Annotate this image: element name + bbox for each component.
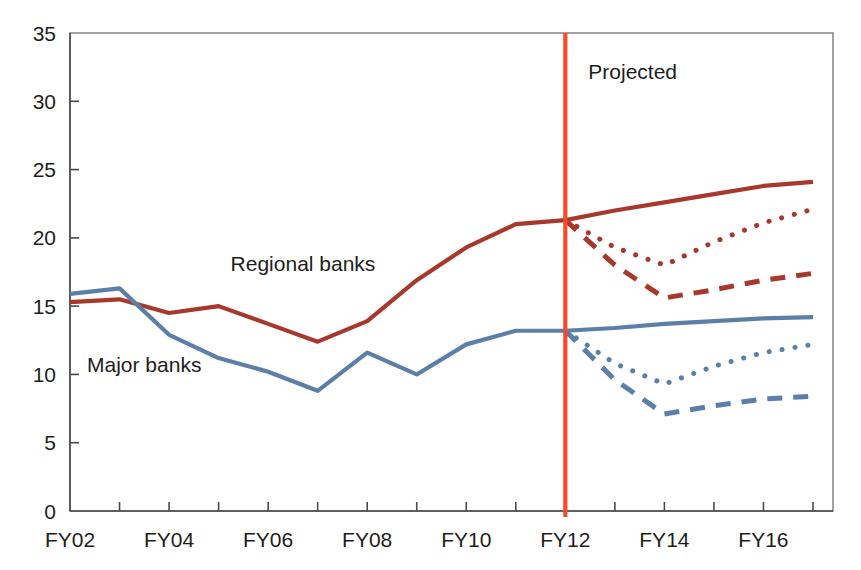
x-tick-label: FY08	[342, 528, 392, 551]
plot-border	[70, 33, 833, 511]
series-line	[565, 220, 813, 298]
series-line	[70, 220, 565, 342]
series-line	[565, 182, 813, 220]
y-axis-ticks	[70, 101, 79, 442]
regional-banks-label: Regional banks	[231, 252, 376, 275]
y-tick-label: 15	[33, 295, 56, 318]
x-tick-label: FY06	[243, 528, 293, 551]
data-series	[70, 182, 813, 414]
y-tick-label: 0	[44, 500, 56, 523]
x-tick-label: FY04	[144, 528, 195, 551]
y-axis-labels: 05101520253035	[33, 22, 56, 523]
x-tick-label: FY14	[639, 528, 690, 551]
x-tick-label: FY02	[45, 528, 95, 551]
x-axis-ticks	[120, 502, 813, 511]
y-tick-label: 30	[33, 90, 56, 113]
major-banks-label: Major banks	[87, 353, 201, 376]
series-line	[565, 331, 813, 414]
y-tick-label: 25	[33, 158, 56, 181]
y-tick-label: 35	[33, 22, 56, 45]
x-axis-labels: FY02FY04FY06FY08FY10FY12FY14FY16	[45, 528, 789, 551]
projected-label: Projected	[588, 60, 677, 83]
x-tick-label: FY16	[738, 528, 788, 551]
line-chart: 05101520253035 FY02FY04FY06FY08FY10FY12F…	[0, 0, 861, 570]
y-tick-label: 5	[44, 431, 56, 454]
plot-frame	[70, 33, 833, 511]
series-line	[565, 317, 813, 331]
x-tick-label: FY12	[540, 528, 590, 551]
y-tick-label: 10	[33, 363, 56, 386]
x-tick-label: FY10	[441, 528, 491, 551]
chart-canvas: 05101520253035 FY02FY04FY06FY08FY10FY12F…	[0, 0, 861, 570]
y-tick-label: 20	[33, 226, 56, 249]
series-line	[565, 331, 813, 384]
